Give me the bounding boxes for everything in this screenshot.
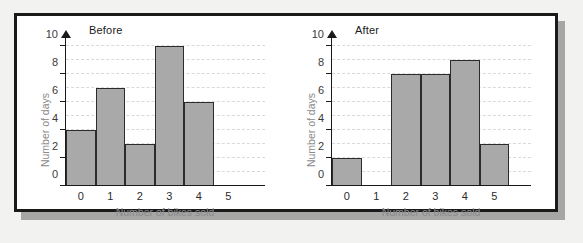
y-axis-tick [326, 157, 332, 158]
y-axis-tick-label: 6 [318, 84, 324, 96]
bar [96, 88, 126, 186]
chart-title-before: Before [89, 24, 123, 36]
bar [450, 60, 480, 186]
bar [155, 46, 185, 186]
x-axis-tick-label: 2 [137, 190, 143, 202]
chart-title-after: After [355, 24, 379, 36]
y-axis-tick [60, 157, 66, 158]
bar [391, 74, 421, 186]
y-axis-line [65, 36, 66, 186]
x-axis-line [331, 185, 531, 186]
y-axis-tick-label: 10 [312, 28, 324, 40]
y-axis-tick-label: 0 [52, 168, 58, 180]
y-axis-tick [326, 129, 332, 130]
x-axis-tick-label: 4 [462, 190, 468, 202]
charts-row: Before Number of days Number of bikes so… [17, 16, 555, 209]
chart-after: After Number of days Number of bikes sol… [283, 16, 555, 209]
y-axis-tick-label: 2 [318, 140, 324, 152]
gridline [332, 45, 531, 46]
x-axis-tick-label: 3 [166, 190, 172, 202]
y-axis-tick-label: 6 [52, 84, 58, 96]
plot-area-before: Number of bikes sold 0246810012345 [65, 46, 265, 204]
y-axis-tick-label: 4 [318, 112, 324, 124]
y-axis-tick-label: 8 [318, 56, 324, 68]
x-axis-tick-label: 3 [432, 190, 438, 202]
x-axis-tick-label: 5 [491, 190, 497, 202]
y-axis-tick [60, 73, 66, 74]
bar [332, 158, 362, 186]
y-axis-tick [60, 185, 66, 186]
x-axis-tick-label: 5 [225, 190, 231, 202]
bar [125, 144, 155, 186]
bar [184, 102, 214, 186]
y-axis-arrow-icon [61, 30, 71, 38]
y-axis-tick-label: 4 [52, 112, 58, 124]
chart-before: Before Number of days Number of bikes so… [17, 16, 289, 209]
x-axis-line [65, 185, 265, 186]
bar [480, 144, 510, 186]
x-axis-tick-label: 0 [344, 190, 350, 202]
gridline [332, 59, 531, 60]
y-axis-label-after: Number of days [305, 75, 317, 185]
x-axis-tick-label: 4 [196, 190, 202, 202]
x-axis-label-after: Number of bikes sold [331, 206, 531, 218]
y-axis-tick [60, 129, 66, 130]
x-axis-tick-label: 1 [107, 190, 113, 202]
x-axis-tick-label: 0 [78, 190, 84, 202]
y-axis-tick [326, 185, 332, 186]
y-axis-tick-label: 2 [52, 140, 58, 152]
y-axis-tick [326, 73, 332, 74]
y-axis-line [331, 36, 332, 186]
bar [66, 130, 96, 186]
y-axis-tick [60, 101, 66, 102]
figure-panel: Before Number of days Number of bikes so… [14, 13, 558, 212]
x-axis-label-before: Number of bikes sold [65, 206, 265, 218]
y-axis-tick [60, 45, 66, 46]
x-axis-tick-label: 2 [403, 190, 409, 202]
y-axis-tick [326, 101, 332, 102]
y-axis-tick [326, 45, 332, 46]
y-axis-tick-label: 0 [318, 168, 324, 180]
y-axis-label-before: Number of days [39, 75, 51, 185]
y-axis-arrow-icon [327, 30, 337, 38]
plot-area-after: Number of bikes sold 0246810012345 [331, 46, 531, 204]
bar [421, 74, 451, 186]
y-axis-tick-label: 10 [46, 28, 58, 40]
x-axis-tick-label: 1 [373, 190, 379, 202]
y-axis-tick-label: 8 [52, 56, 58, 68]
